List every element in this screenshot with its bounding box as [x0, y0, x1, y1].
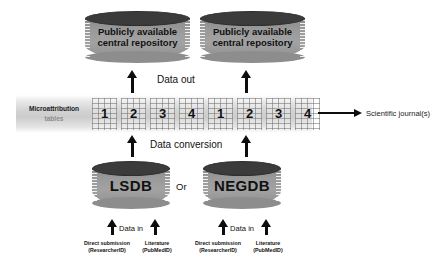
table-cell: 4	[295, 98, 320, 130]
cylinder-bottom-ellipse	[85, 51, 190, 63]
cylinder-top-ellipse	[85, 11, 190, 26]
table-cell-number: 4	[295, 106, 320, 121]
data-in-arrow-lsdb-literature	[150, 219, 161, 235]
data-in-arrow-lsdb-direct	[107, 219, 118, 235]
cylinder-bottom-ellipse	[203, 197, 281, 209]
database-label-lsdb: LSDB	[92, 177, 170, 195]
microattribution-table-strip: Microattribution tables 1 2 3 4 1 2	[16, 95, 312, 133]
data-conversion-arrow-left	[127, 135, 138, 157]
repository-label-right: Publicly available central repository	[200, 26, 305, 48]
microattribution-strip-label: Microattribution tables	[20, 104, 88, 123]
cylinder-bottom-ellipse	[92, 197, 170, 209]
table-cell: 1	[208, 98, 233, 130]
arrow-head-up-icon	[261, 219, 271, 227]
table-cell-number: 1	[92, 106, 117, 121]
database-label-negdb: NEGDB	[203, 177, 281, 195]
data-conversion-arrow-right	[241, 135, 252, 157]
table-group-negdb: 1 2 3 4	[208, 98, 324, 130]
strip-label-line1: Microattribution	[20, 104, 88, 114]
cylinder-bottom-ellipse	[200, 51, 305, 63]
source-lsdb-direct-submission: Direct submission (ResearcherID)	[76, 240, 138, 254]
table-cell: 2	[237, 98, 262, 130]
database-cylinder-negdb: NEGDB	[203, 161, 281, 209]
arrow-head-up-icon	[241, 135, 251, 143]
arrow-shaft	[318, 112, 356, 114]
data-in-label-negdb: Data in	[230, 224, 254, 233]
table-cell: 3	[150, 98, 175, 130]
microattribution-flow-diagram: Publicly available central repository Pu…	[0, 0, 437, 264]
table-cell-number: 3	[150, 106, 175, 121]
source-line2: (PubMedID)	[135, 247, 179, 254]
table-cell: 1	[92, 98, 117, 130]
data-out-arrow-left	[127, 70, 138, 93]
source-line1: Literature	[246, 240, 290, 247]
table-cell-number: 1	[208, 106, 233, 121]
repository-cylinder-right: Publicly available central repository	[200, 11, 305, 63]
table-group-lsdb: 1 2 3 4	[92, 98, 208, 130]
table-cell: 3	[266, 98, 291, 130]
table-cell-number: 2	[237, 106, 262, 121]
table-cell-number: 4	[179, 106, 204, 121]
arrow-head-up-icon	[107, 219, 117, 227]
table-cell: 4	[179, 98, 204, 130]
cylinder-top-ellipse	[92, 161, 170, 176]
source-line1: Direct submission	[76, 240, 138, 247]
data-in-arrow-negdb-literature	[261, 219, 272, 235]
source-lsdb-literature: Literature (PubMedID)	[135, 240, 179, 254]
arrow-head-up-icon	[150, 219, 160, 227]
or-label: Or	[176, 181, 187, 192]
data-out-label: Data out	[157, 74, 195, 85]
source-negdb-literature: Literature (PubMedID)	[246, 240, 290, 254]
repository-cylinder-left: Publicly available central repository	[85, 11, 190, 63]
data-in-arrow-negdb-direct	[218, 219, 229, 235]
table-cell: 2	[121, 98, 146, 130]
arrow-head-right-icon	[354, 109, 362, 117]
source-line2: (ResearcherID)	[76, 247, 138, 254]
repository-label-line2: central repository	[200, 37, 305, 48]
repository-label-line1: Publicly available	[85, 26, 190, 37]
source-line2: (PubMedID)	[246, 247, 290, 254]
arrow-head-up-icon	[127, 70, 137, 78]
arrow-head-up-icon	[127, 135, 137, 143]
strip-label-line2: tables	[20, 114, 88, 124]
repository-label-left: Publicly available central repository	[85, 26, 190, 48]
repository-label-line1: Publicly available	[200, 26, 305, 37]
arrow-head-up-icon	[218, 219, 228, 227]
arrow-head-up-icon	[241, 70, 251, 78]
source-line1: Literature	[135, 240, 179, 247]
source-line1: Direct submission	[187, 240, 249, 247]
source-line2: (ResearcherID)	[187, 247, 249, 254]
cylinder-top-ellipse	[200, 11, 305, 26]
data-conversion-label: Data conversion	[150, 139, 222, 150]
scientific-journals-label: Scientific journal(s)	[366, 109, 430, 118]
database-cylinder-lsdb: LSDB	[92, 161, 170, 209]
table-cell-number: 3	[266, 106, 291, 121]
repository-label-line2: central repository	[85, 37, 190, 48]
data-in-label-lsdb: Data in	[119, 224, 143, 233]
table-cell-number: 2	[121, 106, 146, 121]
cylinder-top-ellipse	[203, 161, 281, 176]
journal-output-arrow	[318, 109, 362, 118]
data-out-arrow-right	[241, 70, 252, 93]
source-negdb-direct-submission: Direct submission (ResearcherID)	[187, 240, 249, 254]
